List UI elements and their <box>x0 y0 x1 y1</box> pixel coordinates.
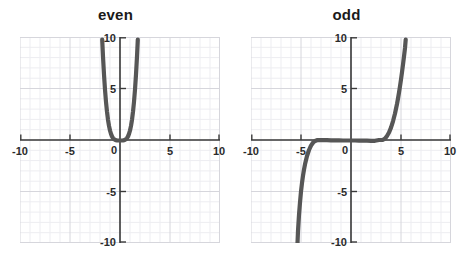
ytick-10-even: 10 <box>104 32 116 44</box>
xtick-zero-even: 0 <box>111 144 117 156</box>
tick-labels-odd: -10 -5 0 5 10 10 5 -5 -10 <box>251 37 451 243</box>
tick-labels-even: -10 -5 0 5 10 10 5 -5 -10 <box>20 37 220 243</box>
xtick-neg10-odd: -10 <box>243 145 259 157</box>
xtick-10-even: 10 <box>213 145 225 157</box>
panel-odd: odd <box>231 0 462 260</box>
xtick-zero-odd: 0 <box>342 144 348 156</box>
xtick-10-odd: 10 <box>444 145 456 157</box>
panel-even: even <box>0 0 231 260</box>
panel-title-odd: odd <box>231 6 462 23</box>
ytick-neg5-odd: -5 <box>337 186 347 198</box>
ytick-neg10-even: -10 <box>100 236 116 248</box>
ytick-10-odd: 10 <box>335 32 347 44</box>
figure-board: even <box>0 0 462 260</box>
panel-title-even: even <box>0 6 231 23</box>
xtick-neg10-even: -10 <box>12 145 28 157</box>
xtick-neg5-even: -5 <box>65 145 75 157</box>
xtick-5-odd: 5 <box>398 145 404 157</box>
ytick-neg10-odd: -10 <box>331 236 347 248</box>
ytick-5-even: 5 <box>110 83 116 95</box>
ytick-neg5-even: -5 <box>106 186 116 198</box>
xtick-neg5-odd: -5 <box>296 145 306 157</box>
plot-area-odd: -10 -5 0 5 10 10 5 -5 -10 <box>251 37 451 243</box>
xtick-5-even: 5 <box>167 145 173 157</box>
plot-area-even: -10 -5 0 5 10 10 5 -5 -10 <box>20 37 220 243</box>
ytick-5-odd: 5 <box>341 83 347 95</box>
